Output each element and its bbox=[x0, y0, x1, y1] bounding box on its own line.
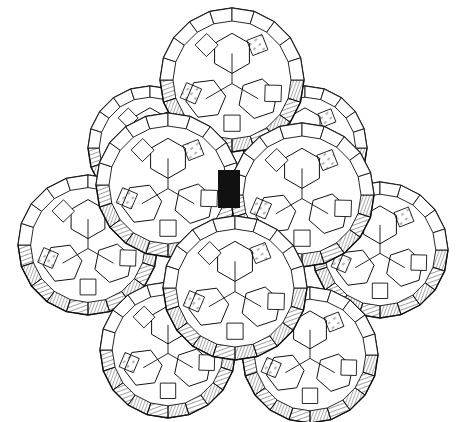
gap-shadow bbox=[218, 170, 240, 208]
polyhedra-illustration bbox=[0, 0, 461, 422]
polyhedra-drawing bbox=[0, 0, 461, 422]
polyhedron-center bbox=[163, 216, 307, 360]
